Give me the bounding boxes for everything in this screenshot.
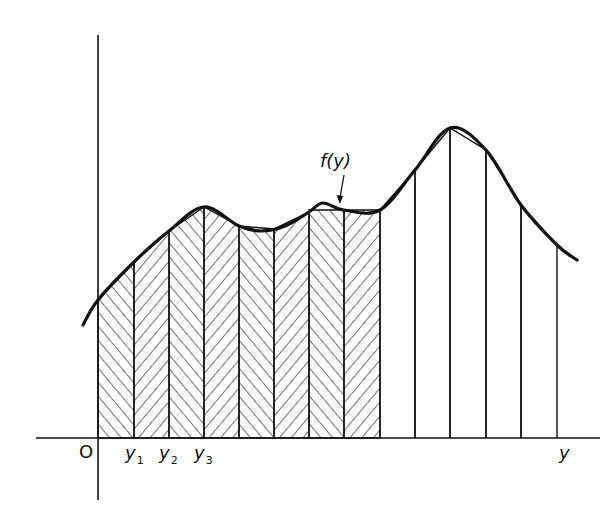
arrow-icon [337, 175, 345, 204]
curve-label: f(y) [320, 152, 351, 170]
unshaded-strip [486, 150, 521, 438]
unshaded-strips [380, 128, 557, 438]
tick-label-subscript: 3 [206, 454, 213, 467]
tick-label-subscript: 2 [171, 454, 178, 467]
tick-label-base: y [125, 442, 136, 463]
shaded-strip [344, 210, 380, 438]
tick-label: y3 [194, 444, 213, 466]
unshaded-strip [450, 128, 486, 438]
shaded-strip [274, 212, 309, 438]
tick-label-base: y [194, 442, 205, 463]
origin-label: O [79, 443, 93, 461]
shaded-strip [169, 207, 204, 438]
tick-label: y1 [125, 444, 144, 466]
shaded-strip [239, 226, 274, 438]
shaded-strip [309, 210, 344, 438]
shaded-strips [98, 207, 380, 438]
tick-label-base: y [159, 442, 170, 463]
tick-label-subscript: 1 [137, 454, 144, 467]
unshaded-strip [415, 128, 450, 438]
axis-label-y: y [559, 444, 570, 462]
shaded-strip [204, 207, 239, 438]
tick-label: y2 [159, 444, 178, 466]
unshaded-strip [380, 170, 415, 438]
shaded-strip [98, 262, 134, 438]
shaded-strip [134, 231, 169, 438]
